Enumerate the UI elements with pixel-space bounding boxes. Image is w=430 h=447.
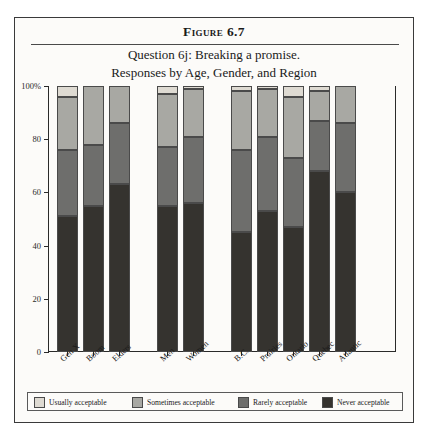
legend-swatch-icon bbox=[322, 397, 333, 408]
y-axis-tick bbox=[44, 299, 49, 300]
bar-prairies[interactable] bbox=[257, 86, 278, 352]
y-axis-tick bbox=[44, 192, 49, 193]
bar-segment bbox=[283, 158, 304, 227]
bar-segment bbox=[183, 137, 204, 204]
bar-atlantic[interactable] bbox=[335, 86, 356, 352]
bar-ontario[interactable] bbox=[283, 86, 304, 352]
bar-segment bbox=[57, 97, 78, 150]
bar-segment bbox=[231, 86, 252, 91]
bar-segment bbox=[231, 232, 252, 352]
bar-segment bbox=[83, 86, 104, 145]
bar-segment bbox=[83, 206, 104, 352]
figure-title-line-2: Responses by Age, Gender, and Region bbox=[15, 65, 413, 81]
bar-segment bbox=[309, 91, 330, 120]
bar-segment bbox=[257, 89, 278, 137]
bar-segment bbox=[183, 203, 204, 352]
bar-segment bbox=[183, 89, 204, 137]
y-axis-label: 80 bbox=[33, 134, 42, 144]
bar-segment bbox=[57, 150, 78, 217]
bar-segment bbox=[157, 94, 178, 147]
bar-segment bbox=[283, 86, 304, 97]
bar-segment bbox=[257, 86, 278, 89]
y-axis-label: 100% bbox=[21, 81, 41, 91]
y-axis-line bbox=[48, 86, 49, 352]
bar-segment bbox=[183, 86, 204, 89]
y-axis-tick bbox=[44, 352, 49, 353]
legend-item[interactable]: Usually acceptable bbox=[34, 396, 107, 409]
y-axis-tick bbox=[44, 139, 49, 140]
bar-segment bbox=[309, 171, 330, 352]
chart-legend: Usually acceptableSometimes acceptableRa… bbox=[27, 392, 403, 411]
legend-label: Usually acceptable bbox=[49, 398, 107, 407]
plot-right-border bbox=[395, 86, 396, 352]
bar-segment bbox=[57, 86, 78, 97]
bar-segment bbox=[231, 91, 252, 150]
bar-segment bbox=[309, 121, 330, 172]
y-axis-tick bbox=[44, 246, 49, 247]
legend-swatch-icon bbox=[238, 397, 249, 408]
bar-women[interactable] bbox=[183, 86, 204, 352]
y-axis-label: 60 bbox=[33, 187, 42, 197]
bar-segment bbox=[157, 147, 178, 206]
bar-segment bbox=[109, 184, 130, 352]
figure-title-line-1: Question 6j: Breaking a promise. bbox=[15, 47, 413, 63]
legend-item[interactable]: Never acceptable bbox=[322, 396, 390, 409]
legend-label: Never acceptable bbox=[337, 398, 390, 407]
bar-segment bbox=[231, 150, 252, 232]
bar-elders[interactable] bbox=[109, 86, 130, 352]
legend-label: Rarely acceptable bbox=[253, 398, 307, 407]
y-axis-label: 40 bbox=[33, 241, 42, 251]
bar-segment bbox=[309, 86, 330, 91]
y-axis-label: 0 bbox=[37, 347, 41, 357]
bar-men[interactable] bbox=[157, 86, 178, 352]
bar-segment bbox=[109, 123, 130, 184]
legend-item[interactable]: Sometimes acceptable bbox=[132, 396, 215, 409]
chart-plot-area: 020406080100% Gen XBoomEldersMenWomenB.C… bbox=[48, 86, 396, 352]
bar-segment bbox=[83, 145, 104, 206]
legend-item[interactable]: Rarely acceptable bbox=[238, 396, 307, 409]
y-axis-label: 20 bbox=[33, 294, 42, 304]
bar-quebec[interactable] bbox=[309, 86, 330, 352]
bar-segment bbox=[257, 211, 278, 352]
bar-segment bbox=[283, 97, 304, 158]
bar-segment bbox=[335, 192, 356, 352]
figure-number: Figure 6.7 bbox=[15, 24, 413, 40]
bar-segment bbox=[57, 216, 78, 352]
bar-gen-x[interactable] bbox=[57, 86, 78, 352]
title-divider bbox=[31, 44, 399, 45]
bar-segment bbox=[257, 137, 278, 211]
bar-segment bbox=[335, 123, 356, 192]
legend-label: Sometimes acceptable bbox=[147, 398, 215, 407]
figure-frame: Figure 6.7 Question 6j: Breaking a promi… bbox=[14, 17, 414, 423]
bar-segment bbox=[157, 206, 178, 352]
bar-b-c[interactable] bbox=[231, 86, 252, 352]
bar-segment bbox=[335, 86, 356, 123]
bar-segment bbox=[283, 227, 304, 352]
legend-swatch-icon bbox=[34, 397, 45, 408]
legend-swatch-icon bbox=[132, 397, 143, 408]
y-axis-tick bbox=[44, 86, 49, 87]
bar-segment bbox=[157, 86, 178, 94]
bar-boom[interactable] bbox=[83, 86, 104, 352]
bar-segment bbox=[109, 86, 130, 123]
